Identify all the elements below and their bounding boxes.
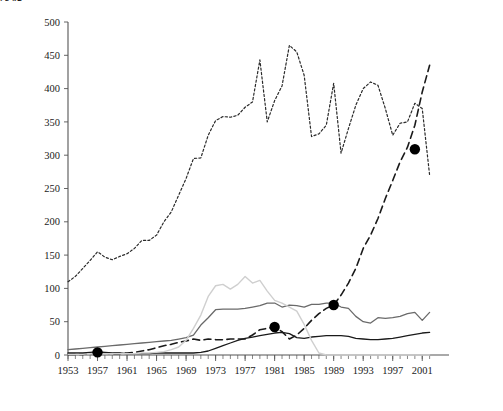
line-chart: 050100150200250300350400450500 195319571… <box>0 0 503 411</box>
y-tick-label: 50 <box>50 316 61 327</box>
y-tick-label: 300 <box>44 150 60 161</box>
x-tick-label: 1957 <box>87 365 108 376</box>
series-line <box>68 276 430 355</box>
x-tick-label: 1969 <box>176 365 197 376</box>
y-tick-label: 150 <box>44 250 60 261</box>
x-tick-label: 1985 <box>294 365 315 376</box>
y-tick-label: 100 <box>44 283 60 294</box>
series-line <box>68 45 430 281</box>
y-tick-label: 250 <box>44 183 60 194</box>
x-tick-label: 1993 <box>353 365 374 376</box>
x-tick-label: 1989 <box>323 365 344 376</box>
data-point-marker <box>328 300 338 310</box>
data-point-marker <box>92 347 102 357</box>
x-tick-label: 1961 <box>117 365 138 376</box>
x-axis-title: 年份 <box>0 0 22 2</box>
y-tick-label: 200 <box>44 216 60 227</box>
x-tick-label: 1973 <box>205 365 226 376</box>
x-tick-label: 1953 <box>58 365 79 376</box>
series-line <box>68 65 430 354</box>
x-tick-label: 1965 <box>146 365 167 376</box>
series-line <box>68 303 430 350</box>
y-axis-ticks: 050100150200250300350400450500 <box>44 17 68 361</box>
x-tick-label: 2001 <box>412 365 433 376</box>
x-tick-label: 1981 <box>264 365 285 376</box>
series-line <box>68 332 430 353</box>
y-tick-label: 450 <box>44 50 60 61</box>
y-tick-label: 500 <box>44 17 60 28</box>
data-point-markers <box>92 144 420 358</box>
series-lines <box>68 45 430 355</box>
y-tick-label: 350 <box>44 117 60 128</box>
x-axis-ticks: 1953195719611965196919731977198119851989… <box>58 355 433 376</box>
x-tick-label: 1977 <box>235 365 256 376</box>
data-point-marker <box>269 322 279 332</box>
x-tick-label: 1997 <box>382 365 403 376</box>
y-tick-label: 400 <box>44 83 60 94</box>
axis-lines <box>68 22 449 355</box>
data-point-marker <box>410 144 420 154</box>
y-tick-label: 0 <box>55 350 60 361</box>
chart-container: 050100150200250300350400450500 195319571… <box>0 0 503 411</box>
